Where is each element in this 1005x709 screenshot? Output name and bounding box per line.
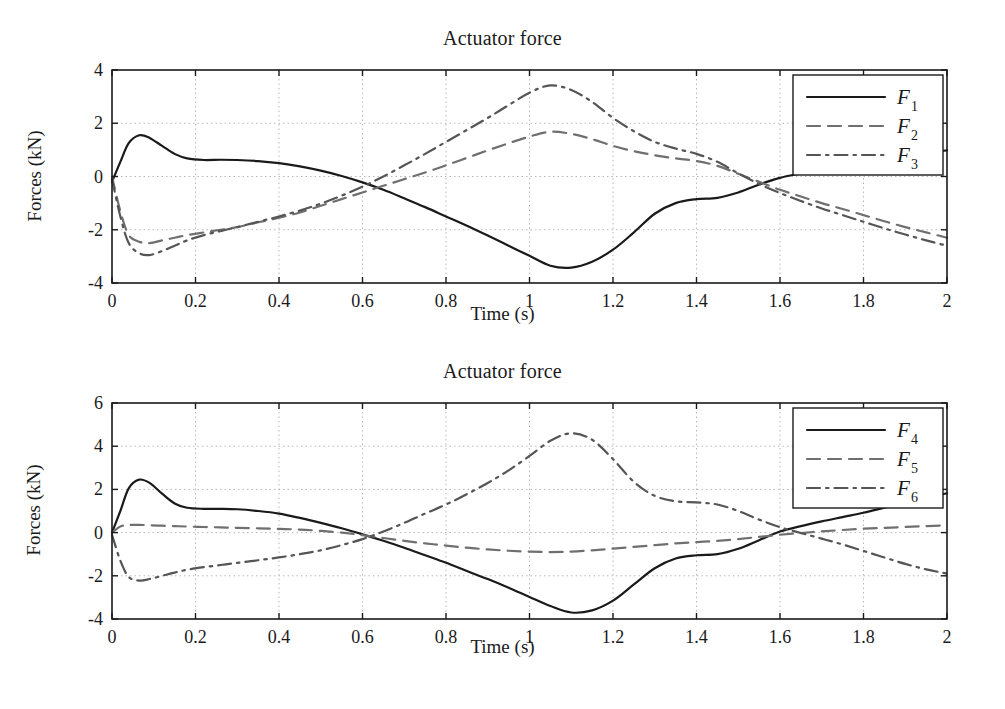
x-tick-label: 2 — [943, 291, 952, 312]
y-tick-label: -4 — [88, 609, 103, 630]
x-tick-label: 1.4 — [685, 627, 708, 648]
x-tick-label: 0.8 — [435, 291, 458, 312]
legend-subscript-f3: 3 — [911, 157, 918, 172]
x-tick-label: 0.6 — [351, 627, 374, 648]
y-tick-label: -2 — [88, 565, 103, 586]
x-tick-label: 0.8 — [435, 627, 458, 648]
legend-subscript-f1: 1 — [911, 99, 918, 114]
y-tick-label: 2 — [94, 479, 103, 500]
x-tick-label: 0.4 — [268, 291, 291, 312]
y-tick-label: -4 — [88, 273, 103, 294]
x-tick-label: 0.2 — [184, 291, 207, 312]
x-tick-label: 0.6 — [351, 291, 374, 312]
y-tick-label: 0 — [94, 522, 103, 543]
x-tick-label: 1 — [525, 291, 534, 312]
y-tick-label: 0 — [94, 166, 103, 187]
y-axis-label-top: Forces (kN) — [23, 69, 45, 282]
legend: F4F5F6 — [793, 408, 943, 508]
x-tick-label: 1.2 — [602, 291, 625, 312]
figure-container: Actuator force F1F2F3 Time (s) Forces (k… — [0, 0, 1005, 709]
x-tick-label: 1.8 — [852, 291, 875, 312]
y-tick-label: 6 — [94, 393, 103, 414]
x-tick-label: 1.6 — [769, 627, 792, 648]
x-tick-label: 0 — [108, 627, 117, 648]
x-tick-label: 2 — [943, 627, 952, 648]
legend-subscript-f4: 4 — [911, 432, 918, 447]
y-axis-label-bottom: Forces (kN) — [23, 402, 45, 618]
y-tick-label: 4 — [94, 60, 103, 81]
legend-subscript-f5: 5 — [911, 461, 918, 476]
legend-label-f6: F — [896, 476, 910, 500]
y-tick-label: -2 — [88, 219, 103, 240]
y-tick-label: 2 — [94, 113, 103, 134]
x-tick-label: 1.8 — [852, 627, 875, 648]
x-tick-label: 1 — [525, 627, 534, 648]
chart-panel-top: Actuator force F1F2F3 Time (s) Forces (k… — [0, 0, 1005, 355]
x-tick-label: 1.6 — [769, 291, 792, 312]
x-tick-label: 1.4 — [685, 291, 708, 312]
legend-label-f3: F — [896, 143, 910, 167]
legend-label-f2: F — [896, 114, 910, 138]
y-tick-label: 4 — [94, 436, 103, 457]
x-tick-label: 1.2 — [602, 627, 625, 648]
chart-panel-bottom: Actuator force F4F5F6 Time (s) Forces (k… — [0, 333, 1005, 709]
legend: F1F2F3 — [793, 75, 943, 175]
legend-label-f5: F — [896, 447, 910, 471]
x-tick-label: 0.2 — [184, 627, 207, 648]
legend-subscript-f2: 2 — [911, 128, 918, 143]
legend-label-f4: F — [896, 418, 910, 442]
x-tick-label: 0.4 — [268, 627, 291, 648]
legend-label-f1: F — [896, 85, 910, 109]
x-tick-label: 0 — [108, 291, 117, 312]
legend-subscript-f6: 6 — [911, 490, 918, 505]
